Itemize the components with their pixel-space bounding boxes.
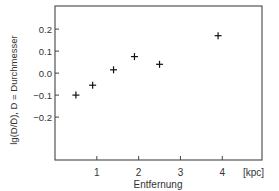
x-tick-label: 1 bbox=[94, 167, 100, 178]
y-tick-label: −0.1 bbox=[33, 90, 52, 101]
x-tick-label: 3 bbox=[178, 167, 184, 178]
x-unit-label: [kpc] bbox=[243, 167, 264, 178]
y-tick-label: −0.2 bbox=[33, 112, 52, 123]
plus-marker-icon bbox=[131, 53, 138, 60]
scatter-chart: 0.20.10.0−0.1−0.2 1234 [kpc] Entfernung … bbox=[0, 0, 279, 191]
x-axis-ticks: 1234 bbox=[94, 156, 225, 178]
data-points bbox=[72, 32, 221, 98]
x-tick-label: 4 bbox=[219, 167, 225, 178]
plus-marker-icon bbox=[110, 66, 117, 73]
y-tick-label: 0.2 bbox=[39, 24, 52, 35]
y-tick-label: 0.0 bbox=[39, 68, 52, 79]
x-tick-label: 2 bbox=[136, 167, 142, 178]
plus-marker-icon bbox=[89, 82, 96, 89]
plot-frame bbox=[55, 6, 262, 160]
x-axis-label: Entfernung bbox=[134, 179, 183, 190]
y-tick-label: 0.1 bbox=[39, 46, 52, 57]
plus-marker-icon bbox=[156, 61, 163, 68]
plus-marker-icon bbox=[215, 32, 222, 39]
plus-marker-icon bbox=[72, 92, 79, 99]
y-axis-label: lg(D/D̄), D = Durchmesser bbox=[8, 35, 19, 145]
